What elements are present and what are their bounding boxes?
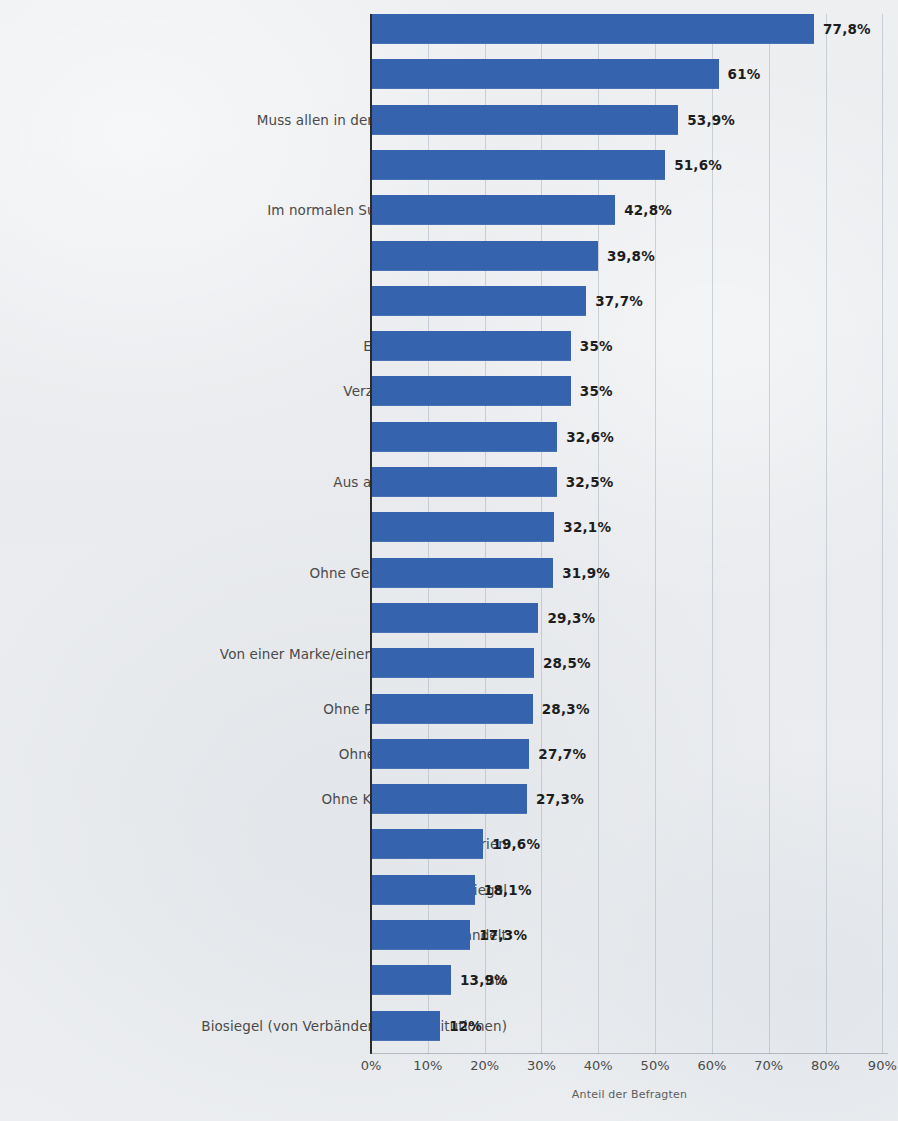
value-label: 37,7%: [595, 293, 643, 309]
bar-row: Natürlichkeit39,8%: [371, 241, 888, 287]
value-label: 51,6%: [674, 157, 722, 173]
x-axis-baseline: [370, 1053, 888, 1054]
x-tick-label: 90%: [868, 1058, 897, 1073]
value-label: 32,5%: [566, 474, 614, 490]
bar: [372, 875, 475, 905]
value-label: 27,3%: [536, 791, 584, 807]
bar: [372, 920, 470, 950]
bar: [372, 603, 538, 633]
bar: [372, 195, 615, 225]
bar: [372, 422, 557, 452]
value-label: 77,8%: [823, 21, 871, 37]
value-label: 61%: [728, 66, 761, 82]
value-label: 17,3%: [479, 927, 527, 943]
bar-row: Von einer Marke/einem Produzenten, demic…: [371, 648, 888, 694]
value-label: 32,6%: [566, 429, 614, 445]
bar-row: Preis61%: [371, 59, 888, 105]
value-label: 29,3%: [547, 610, 595, 626]
value-label: 19,6%: [492, 836, 540, 852]
bar: [372, 14, 814, 44]
bar: [372, 694, 533, 724]
value-label: 18,1%: [484, 882, 532, 898]
value-label: 42,8%: [624, 202, 672, 218]
bar: [372, 1011, 440, 1041]
bar: [372, 467, 557, 497]
bar-row: Aus meiner Region29,3%: [371, 603, 888, 649]
bar: [372, 558, 553, 588]
x-tick-label: 80%: [811, 1058, 840, 1073]
value-label: 32,1%: [563, 519, 611, 535]
bar: [372, 59, 719, 89]
bar: [372, 241, 598, 271]
value-label: 27,7%: [538, 746, 586, 762]
bar-row: Einfach zuzubereiten35%: [371, 331, 888, 377]
bar-row: Im normalen Supermarkt erhältlich42,8%: [371, 195, 888, 241]
bar-row: Ohne Geschmacksverstärker31,9%: [371, 558, 888, 604]
x-axis-title: Anteil der Befragten: [371, 1088, 888, 1101]
plot-area: Frische77,8%Preis61%Muss allen in der Fa…: [371, 14, 888, 1054]
x-tick-label: 50%: [641, 1058, 670, 1073]
bar: [372, 286, 586, 316]
bar-row: Fair gehandelt17,3%: [371, 920, 888, 966]
horizontal-bar-chart: Frische77,8%Preis61%Muss allen in der Fa…: [0, 0, 898, 1121]
bar: [372, 784, 527, 814]
value-label: 12%: [449, 1018, 482, 1034]
value-label: 28,5%: [543, 655, 591, 671]
x-tick-label: 0%: [361, 1058, 382, 1073]
bar-row: Saisonal32,6%: [371, 422, 888, 468]
y-axis-line: [370, 14, 372, 1054]
value-label: 35%: [580, 338, 613, 354]
bar: [372, 739, 529, 769]
bar: [372, 829, 483, 859]
value-label: 28,3%: [542, 701, 590, 717]
value-label: 53,9%: [687, 112, 735, 128]
bar-row: Ohne künstliche Aromen27,7%: [371, 739, 888, 785]
value-label: 13,9%: [460, 972, 508, 988]
bar-row: Ohne Pflanzenschutzmittel28,3%: [371, 694, 888, 740]
value-label: 39,8%: [607, 248, 655, 264]
x-tick-label: 10%: [413, 1058, 442, 1073]
bar: [372, 965, 451, 995]
bar-row: Muss allen in der Familie schmecken53,9%: [371, 105, 888, 151]
bar-row: Hohe Qualität51,6%: [371, 150, 888, 196]
bar: [372, 331, 571, 361]
bar: [372, 376, 571, 406]
bar-row: Qualitätssiegel18,1%: [371, 875, 888, 921]
category-label: Bio: [147, 972, 507, 988]
bar-row: Wenig Kalorien19,6%: [371, 829, 888, 875]
value-label: 31,9%: [562, 565, 610, 581]
x-tick-label: 30%: [527, 1058, 556, 1073]
value-label: 35%: [580, 383, 613, 399]
bar-row: Lange Haltbarkeit37,7%: [371, 286, 888, 332]
x-tick-label: 20%: [470, 1058, 499, 1073]
bar: [372, 512, 554, 542]
bar-row: Verzicht auf Gentechnik35%: [371, 376, 888, 422]
x-tick-label: 40%: [584, 1058, 613, 1073]
bar-row: Biosiegel (von Verbänden bzw. Institutio…: [371, 1011, 888, 1057]
bar: [372, 648, 534, 678]
bar: [372, 150, 665, 180]
bar-row: Aus artgerechter Haltung32,5%: [371, 467, 888, 513]
bar-row: Frische77,8%: [371, 14, 888, 60]
bar-row: Herkunft32,1%: [371, 512, 888, 558]
x-tick-label: 60%: [697, 1058, 726, 1073]
bar-row: Ohne Konservierungsstoffe27,3%: [371, 784, 888, 830]
category-label-line: Bio: [147, 972, 507, 988]
bar-row: Bio13,9%: [371, 965, 888, 1011]
x-tick-label: 70%: [754, 1058, 783, 1073]
bar: [372, 105, 678, 135]
